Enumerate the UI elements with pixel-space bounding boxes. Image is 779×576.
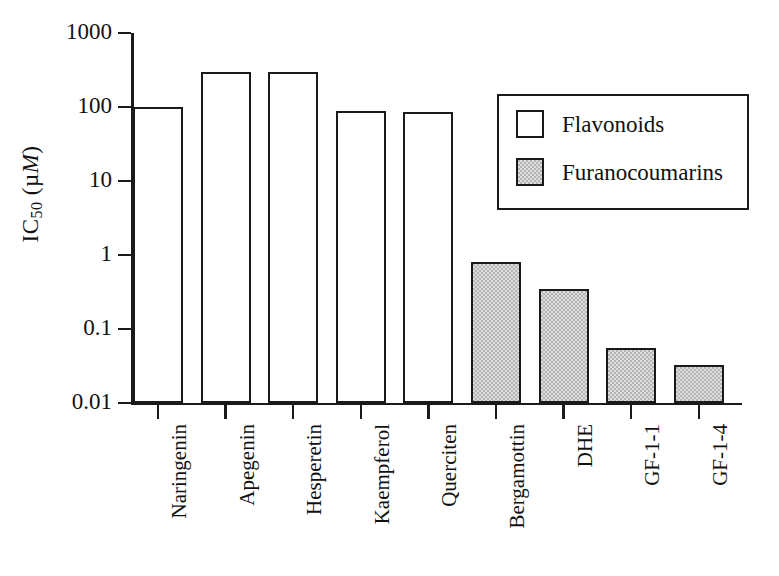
x-tick-label: Hesperetin — [302, 424, 327, 515]
y-tick-label-wrap: 1 — [8, 242, 112, 266]
bar-apegenin — [201, 72, 251, 403]
y-tick-mark — [118, 106, 131, 109]
legend-entry-flavonoids: Flavonoids — [516, 110, 664, 138]
y-tick-label: 1000 — [12, 20, 112, 43]
bar-querciten — [403, 112, 453, 403]
y-tick-label-wrap: 0.1 — [8, 316, 112, 340]
y-tick-label-wrap: 100 — [8, 94, 112, 118]
x-tick-label: DHE — [573, 424, 598, 467]
bar-gf-1-4 — [674, 365, 724, 403]
legend-entry-furanocoumarins: Furanocoumarins — [516, 158, 723, 186]
y-tick-label-wrap: 10 — [8, 168, 112, 192]
bar-bergamottin — [471, 262, 521, 403]
x-tick-mark — [292, 405, 295, 419]
y-tick-mark — [118, 32, 131, 35]
bar-gf-1-1 — [606, 348, 656, 403]
x-tick-label: Bergamottin — [505, 424, 530, 529]
y-tick-mark — [118, 328, 131, 331]
y-tick-mark — [118, 254, 131, 257]
x-tick-label: Querciten — [437, 424, 462, 507]
y-tick-label: 0.1 — [12, 316, 112, 339]
x-tick-mark — [630, 405, 633, 419]
y-tick-label: 10 — [12, 168, 112, 191]
y-tick-label: 100 — [12, 94, 112, 117]
x-tick-mark — [698, 405, 701, 419]
y-tick-label-wrap: 0.01 — [8, 390, 112, 414]
x-tick-label: Naringenin — [167, 424, 192, 518]
x-tick-label: Apegenin — [235, 424, 260, 506]
y-tick-label: 0.01 — [12, 390, 112, 413]
legend-label-furanocoumarins: Furanocoumarins — [562, 161, 723, 184]
y-tick-mark — [118, 402, 131, 405]
x-tick-mark — [157, 405, 160, 419]
y-tick-label-wrap: 1000 — [8, 20, 112, 44]
x-tick-mark — [224, 405, 227, 419]
legend-label-flavonoids: Flavonoids — [562, 113, 664, 136]
x-tick-mark — [360, 405, 363, 419]
y-tick-label: 1 — [12, 242, 112, 265]
bar-chart-figure: IC50 (µM) 10001001010.10.01 NaringeninAp… — [0, 0, 779, 576]
y-axis-title-prefix: IC — [18, 219, 43, 243]
legend-swatch-open-icon — [516, 110, 544, 138]
y-tick-mark — [118, 180, 131, 183]
legend-swatch-hatched-icon — [516, 158, 544, 186]
legend: Flavonoids Furanocoumarins — [497, 94, 749, 210]
x-tick-mark — [427, 405, 430, 419]
bar-kaempferol — [336, 111, 386, 403]
x-tick-label: GF-1-4 — [708, 424, 733, 486]
bar-naringenin — [133, 107, 183, 403]
bar-hesperetin — [268, 72, 318, 403]
y-axis-title-subscript: 50 — [28, 202, 45, 219]
bar-dhe — [539, 289, 589, 403]
y-axis-title-units-close: ) — [18, 146, 43, 154]
x-tick-mark — [495, 405, 498, 419]
x-tick-mark — [562, 405, 565, 419]
x-tick-label: GF-1-1 — [640, 424, 665, 486]
x-tick-label: Kaempferol — [370, 424, 395, 524]
